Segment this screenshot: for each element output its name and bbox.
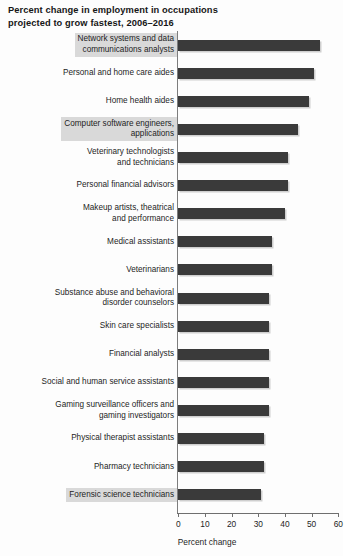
bar-category-label: Home health aides [103, 94, 177, 108]
bar-row: Substance abuse and behavioral disorder … [0, 284, 343, 312]
x-tick-mark [285, 513, 286, 517]
bar-row: Financial analysts [0, 340, 343, 368]
bar-category-label: Physical therapist assistants [68, 432, 177, 446]
y-axis-line [177, 31, 178, 514]
bar-category-label: Veterinarians [123, 263, 177, 277]
bar [178, 461, 263, 472]
x-tick-mark [312, 513, 313, 517]
bar [178, 236, 271, 247]
x-tick-label: 20 [222, 519, 242, 529]
bar-row: Social and human service assistants [0, 368, 343, 396]
page-title: Percent change in employment in occupati… [8, 4, 338, 29]
bar-row: Computer software engineers, application… [0, 115, 343, 143]
bar [178, 152, 287, 163]
bar [178, 208, 285, 219]
bar-row: Skin care specialists [0, 312, 343, 340]
bar-category-label: Skin care specialists [97, 319, 177, 333]
bar-category-label: Veterinary technologists and technicians [84, 145, 177, 169]
bar-category-label: Personal financial advisors [74, 179, 177, 193]
bar-row: Makeup artists, theatrical and performan… [0, 200, 343, 228]
bar [178, 124, 298, 135]
bar-category-label: Personal and home care aides [60, 66, 177, 80]
bar-category-label: Pharmacy technicians [91, 460, 177, 474]
bar-category-label: Social and human service assistants [39, 376, 177, 390]
x-tick-mark [205, 513, 206, 517]
x-tick-label: 0 [168, 519, 188, 529]
bar-category-label: Substance abuse and behavioral disorder … [52, 286, 177, 310]
plot-area: Network systems and data communications … [0, 31, 343, 509]
bar [178, 349, 269, 360]
bar-row: Network systems and data communications … [0, 31, 343, 59]
bar-row: Veterinary technologists and technicians [0, 143, 343, 171]
bar-row: Physical therapist assistants [0, 425, 343, 453]
x-axis-label: Percent change [147, 537, 267, 547]
bar [178, 293, 269, 304]
bar [178, 40, 319, 51]
bar-row: Personal financial advisors [0, 172, 343, 200]
bar [178, 264, 271, 275]
bar-row: Forensic science technicians [0, 481, 343, 509]
bar [178, 180, 287, 191]
bar-row: Gaming surveillance officers and gaming … [0, 397, 343, 425]
bar [178, 321, 269, 332]
x-tick-label: 10 [195, 519, 215, 529]
x-tick-label: 40 [275, 519, 295, 529]
bar [178, 377, 269, 388]
bar-row: Pharmacy technicians [0, 453, 343, 481]
bar-category-label: Network systems and data communications … [75, 33, 177, 57]
bar-row: Personal and home care aides [0, 59, 343, 87]
x-tick-mark [258, 513, 259, 517]
bar-category-label: Makeup artists, theatrical and performan… [80, 202, 177, 226]
bar-category-label: Financial analysts [106, 348, 177, 362]
bar-row: Medical assistants [0, 228, 343, 256]
x-tick-label: 50 [302, 519, 322, 529]
bar-row: Veterinarians [0, 256, 343, 284]
bar [178, 96, 309, 107]
x-tick-mark [232, 513, 233, 517]
bar-category-label: Forensic science technicians [66, 488, 177, 502]
x-tick-mark [338, 513, 339, 517]
bar [178, 68, 314, 79]
x-tick-label: 30 [248, 519, 268, 529]
bar [178, 489, 261, 500]
bar-category-label: Medical assistants [104, 235, 177, 249]
x-tick-mark [178, 513, 179, 517]
bar-category-label: Computer software engineers, application… [61, 117, 177, 141]
bar-row: Home health aides [0, 87, 343, 115]
bar [178, 433, 263, 444]
x-tick-label: 60 [328, 519, 348, 529]
bar [178, 405, 269, 416]
bar-category-label: Gaming surveillance officers and gaming … [52, 398, 177, 422]
